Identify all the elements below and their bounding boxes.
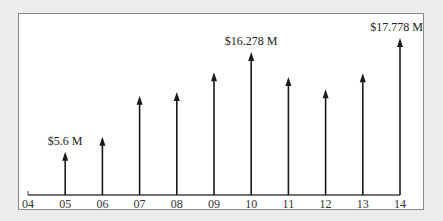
arrowhead-icon (174, 92, 180, 101)
value-annotation: $16.278 M (225, 34, 278, 48)
value-annotation: $17.778 M (370, 20, 423, 34)
x-tick-label: 11 (283, 197, 295, 211)
value-annotation: $5.6 M (48, 134, 83, 148)
arrow-05 (62, 152, 68, 195)
arrowhead-icon (211, 72, 217, 81)
x-tick-label: 08 (171, 197, 183, 211)
x-tick-label: 05 (59, 197, 71, 211)
arrowhead-icon (323, 89, 329, 98)
value-annotations: $5.6 M$16.278 M$17.778 M (48, 20, 423, 148)
arrow-09 (211, 72, 217, 195)
arrow-10 (248, 52, 254, 195)
arrow-07 (137, 96, 143, 195)
x-tick-labels: 0405060708091011121314 (22, 197, 406, 211)
arrowhead-icon (99, 137, 105, 146)
x-tick-label: 10 (245, 197, 257, 211)
x-tick-label: 04 (22, 197, 34, 211)
arrow-12 (323, 89, 329, 195)
arrowhead-icon (360, 73, 366, 82)
arrowhead-icon (137, 96, 143, 105)
arrow-series (62, 38, 403, 195)
arrow-06 (99, 137, 105, 195)
arrow-11 (285, 77, 291, 195)
x-tick-label: 12 (320, 197, 332, 211)
arrow-chart: 0405060708091011121314 $5.6 M$16.278 M$1… (0, 0, 443, 221)
arrowhead-icon (397, 38, 403, 47)
x-tick-label: 07 (134, 197, 146, 211)
arrow-08 (174, 92, 180, 195)
arrow-14 (397, 38, 403, 195)
arrowhead-icon (248, 52, 254, 61)
arrowhead-icon (285, 77, 291, 86)
x-tick-label: 14 (394, 197, 406, 211)
arrowhead-icon (62, 152, 68, 161)
x-tick-label: 13 (357, 197, 369, 211)
x-tick-label: 06 (96, 197, 108, 211)
x-tick-label: 09 (208, 197, 220, 211)
arrow-13 (360, 73, 366, 195)
